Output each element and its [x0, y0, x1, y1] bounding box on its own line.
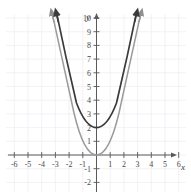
x-tick-label: -3 [52, 160, 59, 169]
x-tick-label: 4 [149, 160, 153, 169]
x-axis-label: x [180, 162, 185, 172]
y-tick-label: 6 [87, 69, 91, 78]
x-tick-label: 1 [108, 160, 112, 169]
y-tick-label: -1 [84, 165, 91, 174]
y-tick-label: -2 [84, 178, 91, 187]
y-tick-label: 8 [87, 41, 91, 50]
x-tick-labels: -6 -5 -4 -3 -2 -1 1 2 3 4 5 6 [11, 160, 181, 169]
y-tick-label: 9 [87, 28, 91, 37]
y-tick-label: 2 [87, 124, 91, 133]
x-tick-label: 3 [136, 160, 140, 169]
y-tick-label: 7 [87, 55, 91, 64]
x-tick-label: -4 [38, 160, 45, 169]
y-tick-label: 3 [87, 110, 91, 119]
y-axis-label: y [85, 12, 90, 22]
parabola-plot: -6 -5 -4 -3 -2 -1 1 2 3 4 5 6 10 9 8 7 6… [0, 0, 191, 196]
y-tick-label: 5 [87, 83, 91, 92]
x-tick-label: -5 [25, 160, 32, 169]
graph-figure: -6 -5 -4 -3 -2 -1 1 2 3 4 5 6 10 9 8 7 6… [0, 0, 191, 196]
x-tick-label: -6 [11, 160, 18, 169]
x-tick-label: 2 [122, 160, 126, 169]
x-tick-label: -2 [66, 160, 73, 169]
x-tick-label: 5 [163, 160, 167, 169]
y-tick-label: 4 [87, 96, 91, 105]
y-tick-label: 1 [87, 137, 91, 146]
